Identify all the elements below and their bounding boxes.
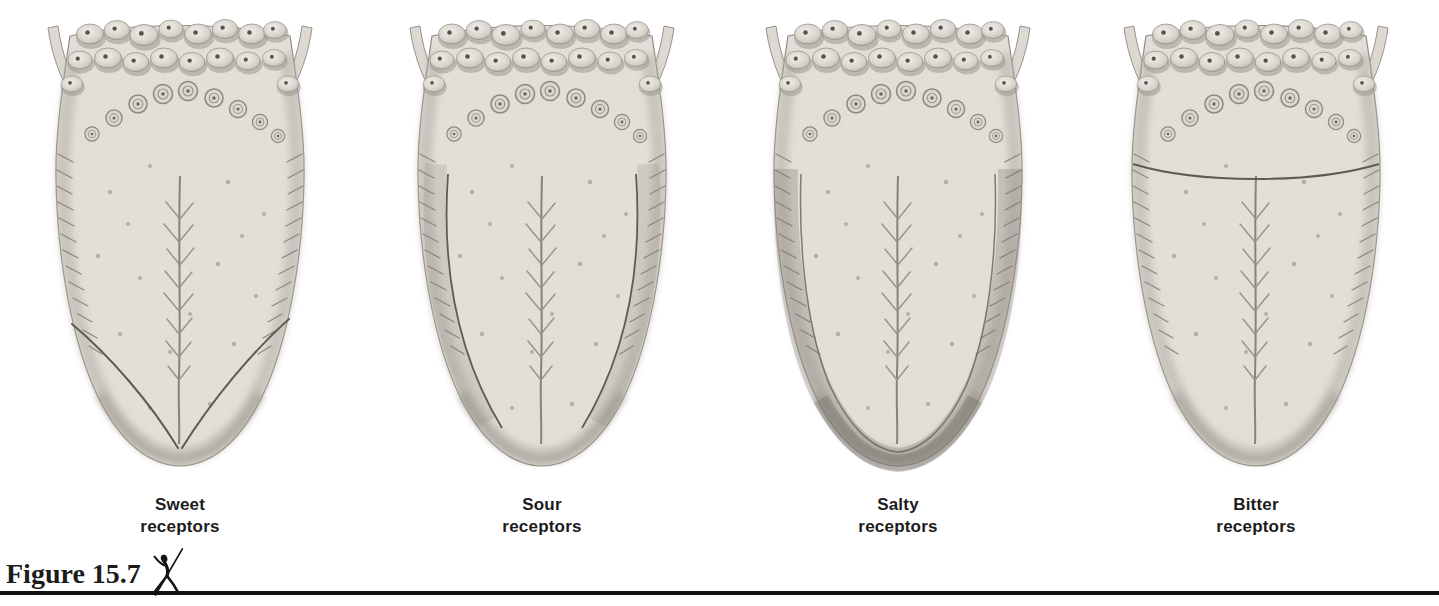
- label-line: Sweet: [28, 494, 332, 516]
- label-line: receptors: [1104, 516, 1408, 538]
- label-line: receptors: [28, 516, 332, 538]
- label-line: Salty: [746, 494, 1050, 516]
- tongue-panel-bitter: [1104, 14, 1408, 479]
- figure-page: Sweet receptors Sour receptors Salty rec…: [0, 0, 1439, 606]
- leaping-dancer-icon: [149, 547, 185, 597]
- label-line: receptors: [746, 516, 1050, 538]
- label-sour-receptors: Sour receptors: [390, 494, 694, 538]
- figure-caption-text: Figure 15.7: [6, 557, 141, 591]
- label-line: Sour: [390, 494, 694, 516]
- tongue-panel-sour: [390, 14, 694, 479]
- figure-caption: Figure 15.7: [6, 549, 185, 591]
- tongue-panel-sweet: [28, 14, 332, 479]
- label-salty-receptors: Salty receptors: [746, 494, 1050, 538]
- label-sweet-receptors: Sweet receptors: [28, 494, 332, 538]
- tongue-illustration-salty: [746, 14, 1050, 479]
- tongue-illustration-sweet: [28, 14, 332, 479]
- tongue-panel-salty: [746, 14, 1050, 479]
- bottom-rule: [0, 591, 1439, 595]
- label-bitter-receptors: Bitter receptors: [1104, 494, 1408, 538]
- label-line: Bitter: [1104, 494, 1408, 516]
- tongue-illustration-bitter: [1104, 14, 1408, 479]
- tongue-illustration-sour: [390, 14, 694, 479]
- label-line: receptors: [390, 516, 694, 538]
